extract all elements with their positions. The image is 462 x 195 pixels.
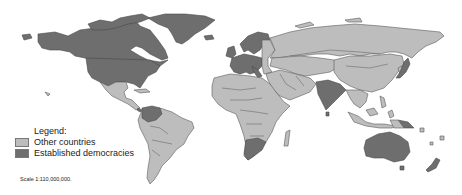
legend-swatch-democracy: [15, 149, 29, 158]
legend-label-other: Other countries: [34, 137, 96, 148]
legend-label-democracy: Established democracies: [34, 148, 134, 159]
region-australia: [364, 132, 410, 162]
region-southern-africa: [244, 138, 266, 160]
world-map: [0, 0, 462, 195]
region-caribbean: [134, 89, 150, 93]
scale-text: Scale 1:110,000,000.: [20, 176, 72, 182]
map-legend: Legend: Other countries Established demo…: [12, 126, 134, 159]
region-alaska-islands: [22, 34, 32, 40]
region-uk-ireland: [226, 46, 236, 58]
region-new-zealand: [426, 158, 440, 172]
region-greenland: [148, 14, 215, 44]
legend-item-established-democracies: Established democracies: [12, 148, 134, 159]
region-madagascar: [284, 130, 290, 146]
region-russia: [270, 24, 444, 58]
region-indonesia: [348, 108, 396, 128]
region-southeast-asia: [346, 90, 368, 108]
legend-item-other-countries: Other countries: [12, 137, 134, 148]
region-pacific-islands: [420, 128, 444, 145]
region-sri-lanka: [326, 112, 329, 116]
legend-title: Legend:: [34, 126, 134, 137]
region-tasmania: [400, 166, 404, 170]
region-iceland: [204, 35, 214, 40]
region-india: [316, 80, 346, 110]
legend-swatch-other: [15, 138, 29, 147]
region-china: [334, 54, 404, 92]
region-mexico: [100, 82, 140, 110]
region-philippines: [380, 96, 386, 108]
region-hawaii: [45, 92, 50, 96]
